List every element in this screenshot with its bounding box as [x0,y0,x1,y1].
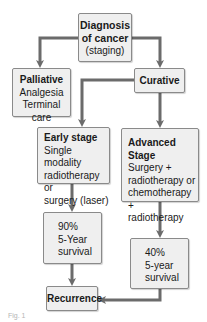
node-early-stage-title: Early stage [44,132,109,145]
node-diagnosis-line-2: (staging) [79,45,131,58]
node-palliative-title: Palliative [13,74,70,87]
node-advanced-stage-line-1: Surgery + [128,162,198,175]
node-survival-advanced: 40% 5-year survival [130,238,189,289]
node-palliative: Palliative Analgesia Terminal care [12,68,71,117]
node-early-stage-line-3: surgery (laser) [44,195,109,208]
arrow-diagnosis-to-palliative [40,38,78,64]
node-advanced-stage-title: Advanced Stage [128,137,198,162]
node-survival-early: 90% 5-Year survival [43,212,102,264]
arrow-curative-to-early-stage [82,80,134,123]
node-survival-advanced-line-3: survival [145,272,188,285]
node-survival-early-line-2: 5-Year [58,234,101,247]
node-advanced-stage-line-3: chemotherapy + [128,187,198,212]
node-palliative-line-1: Analgesia [13,87,70,100]
node-curative: Curative [134,68,185,93]
node-survival-early-line-3: survival [58,246,101,259]
node-diagnosis: Diagnosis of cancer (staging) [78,13,132,62]
node-recurrence: Recurrence [46,286,98,311]
node-palliative-line-2: Terminal care [13,99,70,124]
node-survival-advanced-percent: 40% [145,247,188,260]
node-survival-early-percent: 90% [58,221,101,234]
node-diagnosis-title: Diagnosis [79,19,131,32]
node-advanced-stage-line-4: radiotherapy [128,212,198,225]
arrow-survival-advanced-to-recurrence [102,289,160,300]
node-survival-advanced-line-2: 5-year [145,260,188,273]
figure-caption: Fig. 1 [8,312,26,319]
node-advanced-stage-line-2: radiotherapy or [128,175,198,188]
node-advanced-stage: Advanced Stage Surgery + radiotherapy or… [121,128,199,202]
node-recurrence-title: Recurrence [47,293,97,306]
node-early-stage-line-2: radiotherapy or [44,170,109,195]
node-early-stage: Early stage Single modality radiotherapy… [37,127,110,184]
arrow-diagnosis-to-curative [132,38,160,64]
node-curative-title: Curative [135,75,184,88]
node-early-stage-line-1: Single modality [44,145,109,170]
node-diagnosis-line-1: of cancer [79,32,131,45]
